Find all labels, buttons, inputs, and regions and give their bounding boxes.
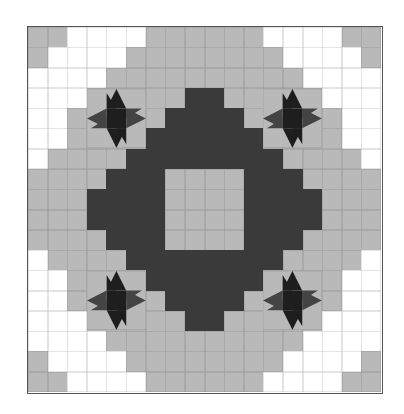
quilt-patch: [165, 250, 185, 271]
quilt-patch: [48, 108, 68, 129]
quilt-patch: [224, 351, 244, 372]
quilt-patch: [106, 210, 126, 231]
quilt-patch: [28, 270, 48, 291]
quilt-patch: [146, 108, 166, 129]
quilt-patch: [224, 68, 244, 89]
quilt-patch: [146, 250, 166, 271]
quilt-patch: [67, 68, 87, 89]
quilt-patch: [205, 291, 225, 312]
quilt-patch: [146, 169, 166, 190]
quilt-patch: [361, 270, 381, 291]
quilt-patch: [224, 88, 244, 109]
quilt-patch: [87, 169, 107, 190]
quilt-patch: [361, 250, 381, 271]
quilt-patch: [48, 311, 68, 332]
quilt-patch: [244, 128, 264, 149]
quilt-patch: [244, 169, 264, 190]
quilt-patch: [303, 250, 323, 271]
quilt-patch: [342, 331, 362, 352]
quilt-patch: [342, 210, 362, 231]
quilt-patch: [361, 189, 381, 210]
quilt-patch: [165, 108, 185, 129]
quilt-patch: [342, 68, 362, 89]
quilt-patch: [244, 331, 264, 352]
star-bottom-left-icon: [87, 270, 146, 331]
quilt-patch: [185, 230, 205, 251]
quilt-patch: [205, 108, 225, 129]
quilt-patch: [28, 68, 48, 89]
quilt-patch: [48, 68, 68, 89]
quilt-patch: [146, 230, 166, 251]
quilt-patch: [165, 149, 185, 170]
quilt-patch: [303, 331, 323, 352]
quilt-patch: [67, 270, 87, 291]
quilt-patch: [67, 331, 87, 352]
quilt-patch: [205, 210, 225, 231]
quilt-patch: [263, 331, 283, 352]
quilt-patch: [165, 47, 185, 68]
quilt-patch: [224, 210, 244, 231]
quilt-patch: [205, 270, 225, 291]
quilt-patch: [67, 128, 87, 149]
quilt-patch: [106, 169, 126, 190]
quilt-patch: [244, 210, 264, 231]
quilt-patch: [361, 331, 381, 352]
quilt-patch: [283, 149, 303, 170]
quilt-patch: [361, 210, 381, 231]
quilt-patch: [244, 108, 264, 129]
quilt-patch: [67, 210, 87, 231]
quilt-patch: [106, 149, 126, 170]
quilt-patch: [67, 250, 87, 271]
quilt-patch: [361, 351, 381, 372]
quilt-patch: [48, 230, 68, 251]
quilt-patch: [67, 230, 87, 251]
quilt-patch: [185, 169, 205, 190]
quilt-patch: [48, 128, 68, 149]
quilt-patch: [165, 68, 185, 89]
quilt-patch: [146, 27, 166, 48]
quilt-patch: [146, 311, 166, 332]
quilt-patch: [342, 291, 362, 312]
quilt-patch: [361, 149, 381, 170]
quilt-patch: [224, 372, 244, 393]
quilt-patch: [361, 372, 381, 393]
quilt-patch: [165, 291, 185, 312]
quilt-patch: [224, 270, 244, 291]
quilt-patch: [224, 291, 244, 312]
quilt-patch: [48, 47, 68, 68]
quilt-patch: [263, 27, 283, 48]
quilt-patch: [205, 189, 225, 210]
quilt-patch: [106, 27, 126, 48]
quilt-patch: [146, 88, 166, 109]
quilt-patch: [165, 169, 185, 190]
quilt-patch: [342, 47, 362, 68]
quilt-patch: [244, 372, 264, 393]
quilt-patch: [28, 189, 48, 210]
quilt-patch: [28, 128, 48, 149]
quilt-patch: [185, 210, 205, 231]
quilt-patch: [165, 331, 185, 352]
quilt-patch: [244, 68, 264, 89]
quilt-patch: [205, 250, 225, 271]
quilt-patch: [126, 210, 146, 231]
quilt-patch: [244, 270, 264, 291]
quilt-patch: [126, 47, 146, 68]
quilt-patch: [244, 47, 264, 68]
quilt-patch: [126, 351, 146, 372]
quilt-patch: [322, 291, 342, 312]
quilt-patch: [48, 372, 68, 393]
quilt-patch: [361, 291, 381, 312]
quilt-patch: [303, 149, 323, 170]
quilt-patch: [146, 189, 166, 210]
quilt-patch: [283, 372, 303, 393]
quilt-patch: [185, 291, 205, 312]
quilt-patch: [67, 189, 87, 210]
quilt-patch: [303, 189, 323, 210]
quilt-patch: [361, 169, 381, 190]
quilt-patch: [126, 372, 146, 393]
quilt-patch: [263, 189, 283, 210]
quilt-patch: [322, 128, 342, 149]
quilt-patch: [165, 311, 185, 332]
quilt-patch: [361, 68, 381, 89]
quilt-patch: [185, 88, 205, 109]
